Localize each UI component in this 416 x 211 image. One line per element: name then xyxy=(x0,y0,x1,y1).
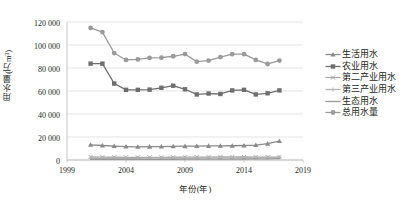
legend-label: 第二产业用水 xyxy=(341,72,396,83)
data-point-marker xyxy=(136,88,140,92)
legend-label: 第三产业用水 xyxy=(341,84,396,95)
legend-marker xyxy=(331,88,335,92)
legend-item-6[interactable]: 总用水量 xyxy=(325,107,415,119)
legend-marker-icon xyxy=(325,61,341,72)
data-point-marker xyxy=(124,88,128,92)
data-point-marker xyxy=(159,55,164,60)
legend-item-1[interactable]: 生活用水 xyxy=(325,49,415,61)
data-point-marker xyxy=(254,92,258,96)
data-point-marker xyxy=(230,88,234,92)
data-point-marker xyxy=(277,88,281,92)
legend-marker-icon xyxy=(325,72,341,83)
series-6 xyxy=(88,26,282,67)
legend-item-5[interactable]: 生态用水 xyxy=(325,95,415,107)
legend-marker-icon xyxy=(325,49,341,60)
legend-marker-icon xyxy=(325,96,341,107)
x-axis-title: 年份(年) xyxy=(140,182,250,194)
data-point-marker xyxy=(124,58,129,63)
data-point-marker xyxy=(171,84,175,88)
chart-legend: 生活用水农业用水第二产业用水第三产业用水生态用水总用水量 xyxy=(325,49,415,119)
legend-label: 农业用水 xyxy=(341,61,378,72)
data-point-marker xyxy=(218,55,223,60)
legend-label: 生活用水 xyxy=(341,49,378,60)
data-point-marker xyxy=(171,54,176,59)
data-point-marker xyxy=(147,55,152,60)
data-point-marker xyxy=(331,110,336,115)
data-point-marker xyxy=(183,52,188,57)
data-point-marker xyxy=(230,52,235,57)
data-point-marker xyxy=(194,59,199,64)
data-point-marker xyxy=(100,61,104,65)
data-point-marker xyxy=(277,58,282,63)
data-point-marker xyxy=(206,91,210,95)
legend-marker-icon xyxy=(325,107,341,118)
data-point-marker xyxy=(265,91,269,95)
legend-item-4[interactable]: 第三产业用水 xyxy=(325,84,415,96)
data-point-marker xyxy=(206,58,211,63)
data-point-marker xyxy=(135,57,140,62)
legend-label: 总用水量 xyxy=(341,107,378,118)
series-1 xyxy=(88,138,282,148)
data-point-marker xyxy=(242,52,247,57)
data-point-marker xyxy=(112,81,116,85)
series-line xyxy=(91,159,280,160)
data-point-marker xyxy=(147,87,151,91)
legend-marker xyxy=(331,64,335,68)
legend-item-3[interactable]: 第二产业用水 xyxy=(325,72,415,84)
data-point-marker xyxy=(265,62,270,67)
data-point-marker xyxy=(242,88,246,92)
data-point-marker xyxy=(331,64,335,68)
legend-item-2[interactable]: 农业用水 xyxy=(325,61,415,73)
data-point-marker xyxy=(88,26,93,31)
series-2 xyxy=(88,61,281,96)
series-5 xyxy=(91,159,280,160)
data-point-marker xyxy=(218,92,222,96)
series-line xyxy=(91,28,280,64)
chart-figure: 用水量(万m³) 120 000 100 000 80 000 60 000 4… xyxy=(0,0,416,211)
data-point-marker xyxy=(112,51,117,56)
data-point-marker xyxy=(277,138,282,143)
data-point-marker xyxy=(88,61,92,65)
data-point-marker xyxy=(100,30,105,35)
legend-label: 生态用水 xyxy=(341,96,378,107)
data-point-marker xyxy=(183,87,187,91)
data-point-marker xyxy=(253,58,258,63)
legend-marker-icon xyxy=(325,84,341,95)
legend-marker xyxy=(331,110,336,115)
data-point-marker xyxy=(195,92,199,96)
data-point-marker xyxy=(159,86,163,90)
